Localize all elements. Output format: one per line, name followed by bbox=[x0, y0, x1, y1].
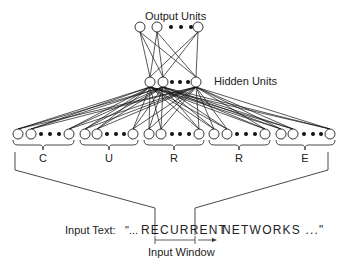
input-unit-node bbox=[128, 129, 138, 139]
output-unit-node bbox=[152, 22, 162, 32]
input-unit-node bbox=[276, 129, 286, 139]
ellipsis-dot bbox=[170, 80, 174, 84]
connection-edge bbox=[150, 87, 199, 129]
connection-edge bbox=[150, 87, 330, 129]
input-unit-node bbox=[144, 129, 154, 139]
ellipsis-dot bbox=[114, 132, 118, 136]
input-group-letter: U bbox=[105, 152, 113, 164]
group-brace bbox=[80, 140, 138, 150]
ellipsis-dot bbox=[48, 132, 52, 136]
connection-edge bbox=[196, 32, 198, 77]
output-units-label: Output Units bbox=[145, 10, 207, 22]
ellipsis-dot bbox=[57, 132, 61, 136]
input-unit-node bbox=[222, 129, 232, 139]
connection-edge bbox=[140, 32, 163, 77]
arrowhead-icon bbox=[212, 238, 217, 242]
connection-edge bbox=[150, 32, 157, 77]
group-brace bbox=[209, 140, 270, 150]
input-unit-node bbox=[194, 129, 204, 139]
group-brace bbox=[144, 140, 204, 150]
connection-edge bbox=[157, 32, 196, 77]
input-unit-node bbox=[92, 129, 102, 139]
input-unit-node bbox=[156, 129, 166, 139]
ellipsis-dot bbox=[105, 132, 109, 136]
connection-edge bbox=[196, 87, 293, 129]
ellipsis-dot bbox=[122, 132, 126, 136]
output-unit-node bbox=[135, 22, 145, 32]
ellipsis-dot bbox=[253, 132, 257, 136]
input-unit-node bbox=[80, 129, 90, 139]
ellipsis-dot bbox=[186, 80, 190, 84]
input-group-letter: R bbox=[170, 152, 178, 164]
hidden-unit-node bbox=[158, 77, 168, 87]
hidden-unit-node bbox=[191, 77, 201, 87]
input-text-label: Input Text: bbox=[65, 224, 116, 236]
ellipsis-dot bbox=[189, 25, 193, 29]
input-units-layer bbox=[13, 129, 335, 150]
group-brace bbox=[276, 140, 335, 150]
ellipsis-dot bbox=[39, 132, 43, 136]
input-text-prefix: "... bbox=[125, 224, 138, 236]
ellipsis-dot bbox=[319, 132, 323, 136]
hidden-units-label: Hidden Units bbox=[214, 75, 277, 87]
ellipsis-dot bbox=[244, 132, 248, 136]
output-units-layer bbox=[135, 22, 203, 32]
input-unit-node bbox=[26, 129, 36, 139]
hidden-units-layer bbox=[145, 77, 201, 87]
hidden-unit-node bbox=[145, 77, 155, 87]
input-group-letter: R bbox=[235, 152, 243, 164]
input-unit-node bbox=[13, 129, 23, 139]
connection-edge bbox=[157, 32, 163, 77]
input-text-suffix: NETWORKS ..." bbox=[222, 223, 325, 237]
recurrent-network-diagram: Output Units Hidden Units Input Text: ".… bbox=[0, 0, 347, 272]
group-brace bbox=[13, 140, 74, 150]
ellipsis-dot bbox=[311, 132, 315, 136]
input-unit-node bbox=[64, 129, 74, 139]
ellipsis-dot bbox=[235, 132, 239, 136]
input-group-labels: CURRE bbox=[39, 152, 309, 164]
input-window-frame-left bbox=[15, 152, 155, 235]
ellipsis-dot bbox=[187, 132, 191, 136]
ellipsis-dot bbox=[179, 25, 183, 29]
ellipsis-dot bbox=[178, 80, 182, 84]
ellipsis-dot bbox=[178, 132, 182, 136]
ellipsis-dot bbox=[169, 25, 173, 29]
input-group-letter: C bbox=[39, 152, 47, 164]
connection-edge bbox=[150, 32, 198, 77]
output-unit-node bbox=[193, 22, 203, 32]
input-group-letter: E bbox=[301, 152, 308, 164]
input-unit-node bbox=[209, 129, 219, 139]
ellipsis-dot bbox=[170, 132, 174, 136]
input-unit-node bbox=[260, 129, 270, 139]
input-unit-node bbox=[288, 129, 298, 139]
output-hidden-connections bbox=[140, 32, 198, 77]
input-text-window: RECURRENT bbox=[141, 223, 227, 237]
input-unit-node bbox=[325, 129, 335, 139]
ellipsis-dot bbox=[302, 132, 306, 136]
input-window-label: Input Window bbox=[148, 246, 215, 258]
hidden-input-connections bbox=[18, 87, 330, 129]
connection-edge bbox=[150, 87, 293, 129]
